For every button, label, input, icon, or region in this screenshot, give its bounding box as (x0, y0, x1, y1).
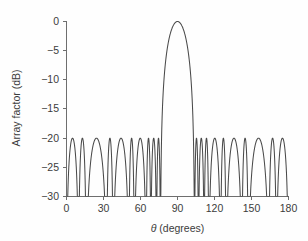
y-tick-label: −30 (41, 190, 59, 202)
x-tick-label: 120 (206, 202, 224, 214)
y-axis-tick-labels: 0 −5 −10 −15 −20 −25 −30 (41, 15, 59, 202)
y-tick-label: −5 (47, 44, 59, 56)
y-tick-label: 0 (53, 15, 59, 27)
chart-canvas: 0 −5 −10 −15 −20 −25 −30 0 30 60 90 120 … (0, 0, 308, 241)
x-tick-label: 60 (135, 202, 147, 214)
x-axis-tick-labels: 0 30 60 90 120 150 180 (64, 202, 298, 214)
x-tick-label: 0 (64, 202, 70, 214)
y-tick-label: −15 (41, 102, 59, 114)
y-tick-label: −25 (41, 161, 59, 173)
x-tick-label: 150 (243, 202, 261, 214)
y-tick-label: −10 (41, 73, 59, 85)
y-axis-title: Array factor (dB) (10, 69, 22, 146)
x-tick-label: 90 (172, 202, 184, 214)
x-axis-title: θ (degrees) (151, 222, 205, 234)
x-axis-title-rest: (degrees) (156, 222, 204, 234)
x-axis-ticks (67, 197, 289, 201)
array-factor-chart-figure: 0 −5 −10 −15 −20 −25 −30 0 30 60 90 120 … (0, 0, 308, 241)
y-axis-ticks (63, 22, 67, 197)
array-factor-curve (67, 22, 289, 197)
x-tick-label: 30 (98, 202, 110, 214)
x-tick-label: 180 (280, 202, 298, 214)
y-tick-label: −20 (41, 132, 59, 144)
